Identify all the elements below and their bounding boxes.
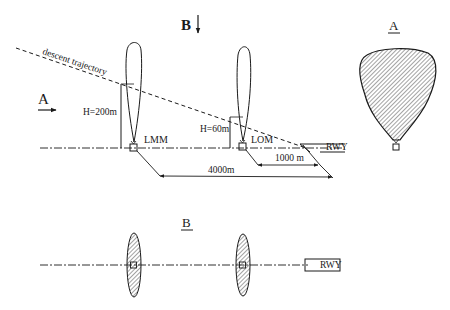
lmm-antenna-icon bbox=[130, 144, 137, 151]
lom-beacon: LOM H=60m bbox=[200, 47, 273, 150]
lom-height-label: H=60m bbox=[200, 124, 230, 134]
marker-beacon-diagram: B A descent trajectory LMM H=200m bbox=[0, 0, 450, 310]
view-marker-a-label: A bbox=[38, 91, 49, 107]
lmm-beacon: LMM H=200m bbox=[83, 43, 168, 152]
view-b-lom-pattern bbox=[236, 234, 250, 296]
distance-4000-label: 4000m bbox=[208, 165, 235, 175]
view-a-title: A bbox=[389, 18, 399, 33]
view-b: B RWY bbox=[40, 215, 342, 297]
view-marker-a: A bbox=[38, 91, 56, 110]
lmm-height-label: H=200m bbox=[83, 107, 117, 117]
view-marker-b-label: B bbox=[181, 17, 191, 33]
lom-antenna-icon bbox=[239, 143, 246, 150]
lmm-label: LMM bbox=[144, 134, 168, 145]
view-b-lmm-pattern bbox=[127, 233, 141, 297]
view-b-title: B bbox=[182, 215, 191, 230]
trajectory-label: descent trajectory bbox=[41, 46, 108, 77]
view-b-runway-label: RWY bbox=[320, 260, 342, 270]
distance-1000-label: 1000 m bbox=[275, 153, 304, 163]
view-a-radiation-pattern bbox=[360, 49, 436, 140]
lom-label: LOM bbox=[251, 134, 273, 145]
runway-label: RWY bbox=[326, 142, 348, 152]
view-marker-b: B bbox=[181, 15, 198, 33]
view-a-antenna-icon bbox=[393, 144, 399, 150]
descent-trajectory: descent trajectory bbox=[16, 46, 306, 148]
view-a: A bbox=[360, 18, 436, 150]
lmm-beam-lobe bbox=[126, 43, 142, 143]
